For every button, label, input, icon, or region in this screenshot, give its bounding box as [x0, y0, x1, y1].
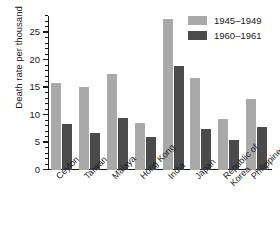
y-axis-major-tick: 15 [43, 86, 48, 87]
y-axis-minor-tick [45, 76, 48, 77]
y-axis-minor-tick [45, 65, 48, 66]
legend: 1945–19491960–1961 [188, 13, 262, 43]
y-axis-minor-tick [45, 158, 48, 159]
legend-label: 1960–1961 [214, 30, 262, 41]
y-axis-minor-tick [45, 81, 48, 82]
y-axis-minor-tick [45, 15, 48, 16]
y-axis-minor-tick [45, 37, 48, 38]
y-axis-minor-tick [45, 153, 48, 154]
y-axis-minor-tick [45, 48, 48, 49]
y-axis-tick-label: 5 [35, 136, 40, 147]
bar [218, 119, 228, 170]
y-axis-major-tick: 5 [43, 141, 48, 142]
y-axis-minor-tick [45, 109, 48, 110]
y-axis-title: Death rate per thousand [13, 0, 24, 128]
y-axis-minor-tick [45, 43, 48, 44]
y-axis-major-tick: 0 [43, 169, 48, 170]
bar [135, 123, 145, 170]
y-axis-minor-tick [45, 26, 48, 27]
y-axis-minor-tick [45, 98, 48, 99]
y-axis-minor-tick [45, 103, 48, 104]
bar [51, 83, 61, 170]
y-axis-minor-tick [45, 125, 48, 126]
y-axis-tick-label: 15 [29, 81, 40, 92]
y-axis-tick-label: 0 [35, 163, 40, 174]
y-axis-tick-label: 10 [29, 108, 40, 119]
y-axis-minor-tick [45, 164, 48, 165]
bar [190, 78, 200, 170]
y-axis-minor-tick [45, 136, 48, 137]
y-axis-tick-label: 25 [29, 26, 40, 37]
bar-group [49, 16, 77, 170]
y-axis-minor-tick [45, 131, 48, 132]
y-axis-minor-tick [45, 54, 48, 55]
y-axis-major-tick: 20 [43, 59, 48, 60]
legend-swatch [188, 31, 207, 40]
bar [79, 87, 89, 170]
y-axis-minor-tick [45, 147, 48, 148]
bar-group [105, 16, 133, 170]
bar-group [133, 16, 161, 170]
bar [107, 74, 117, 170]
y-axis-minor-tick [45, 70, 48, 71]
y-axis-tick-label: 20 [29, 53, 40, 64]
y-axis-minor-tick [45, 92, 48, 93]
y-axis-major-tick: 25 [43, 31, 48, 32]
y-axis-minor-tick [45, 21, 48, 22]
legend-swatch [188, 16, 207, 25]
bar [174, 66, 184, 170]
bar-chart: Death rate per thousand 0510152025 Ceylo… [0, 0, 280, 242]
y-axis-minor-tick [45, 120, 48, 121]
legend-item: 1945–1949 [188, 13, 262, 28]
y-axis-major-tick: 10 [43, 114, 48, 115]
legend-label: 1945–1949 [214, 15, 262, 26]
bar-group [77, 16, 105, 170]
legend-item: 1960–1961 [188, 28, 262, 43]
